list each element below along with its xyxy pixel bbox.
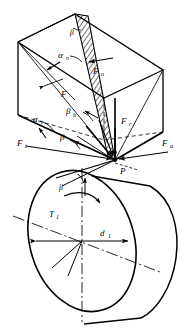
apex-angle-group: β <box>18 14 81 42</box>
P-marker-dot <box>113 158 117 162</box>
cylinder-rear-arc <box>141 186 177 318</box>
beta-b-label: β <box>65 106 71 116</box>
Ft-force-group: F t <box>16 138 27 149</box>
Ft-label: F <box>16 138 23 148</box>
beta-apex-label: β <box>69 28 74 37</box>
Fn-subscript: n <box>101 71 104 77</box>
axis-parallel-line <box>62 160 115 186</box>
beta-lower-label: β <box>58 183 63 192</box>
Fr-subscript: r <box>129 121 132 127</box>
pitch-point-P: P <box>113 158 126 176</box>
d1-subscript: 1 <box>108 233 111 239</box>
alpha-n-group: α n <box>47 50 82 70</box>
alpha-t-label: α <box>33 114 38 124</box>
beta-mid-label: β <box>59 132 65 142</box>
T1-subscript: 1 <box>56 214 59 220</box>
helical-gear-force-diagram: d 1 T 1 β <box>0 0 188 332</box>
alpha-n-label: α <box>58 50 63 60</box>
helix-tangent-left <box>56 160 115 178</box>
torque-indicator: T 1 <box>49 193 100 220</box>
alpha-n-subscript: n <box>66 55 69 61</box>
d1-label: d <box>100 228 105 238</box>
Fn-force-group: F n <box>89 58 113 77</box>
beta-b-subscript: b <box>73 112 76 118</box>
box-hidden-bottom-right <box>104 132 163 140</box>
cylinder-bottom-edge <box>84 318 141 324</box>
F-label: F <box>60 89 67 99</box>
alpha-n-arc <box>70 56 82 62</box>
apex-line-left <box>18 14 75 42</box>
Fn-label: F <box>92 66 99 76</box>
Fa-subscript: a <box>170 143 173 149</box>
figure-container: d 1 T 1 β <box>0 0 188 332</box>
center-radius-line-2 <box>68 241 82 276</box>
Fa-label: F <box>161 138 168 148</box>
Fa-force-group: F a <box>161 138 173 149</box>
center-radius-line <box>52 241 82 268</box>
Fr-force-group: F r <box>120 116 132 127</box>
F-resultant-group: F <box>44 79 67 99</box>
Fr-label: F <box>120 116 127 126</box>
tangent-dashed-tail <box>115 163 138 170</box>
beta-b-arc <box>83 112 93 121</box>
T1-label: T <box>49 209 55 219</box>
P-label: P <box>119 166 126 176</box>
alpha-t-pointer <box>39 128 46 138</box>
cylinder-centerlines <box>13 168 160 322</box>
force-arrows-at-P <box>26 120 168 159</box>
